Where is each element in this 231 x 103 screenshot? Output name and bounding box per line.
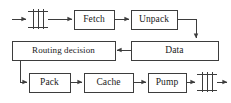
flow-diagram: Fetch Unpack Data Routing decision Pack … — [0, 0, 231, 103]
node-box-cache[interactable] — [84, 73, 133, 92]
diagram-canvas — [0, 0, 231, 103]
node-box-routing-decision[interactable] — [12, 41, 115, 60]
edge-routing-to-pack — [20, 60, 27, 82]
output-gate-symbol — [197, 72, 217, 92]
node-box-fetch[interactable] — [74, 10, 114, 29]
node-box-data[interactable] — [131, 41, 218, 60]
edge-unpack-to-data — [177, 19, 196, 38]
node-box-pump[interactable] — [148, 73, 186, 92]
input-gate-symbol — [28, 9, 48, 29]
node-box-unpack[interactable] — [131, 10, 177, 29]
node-box-pack[interactable] — [29, 73, 70, 92]
